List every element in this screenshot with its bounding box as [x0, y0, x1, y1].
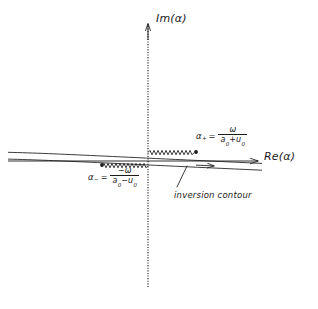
alpha-minus-numerator: −ω — [116, 167, 133, 176]
alpha-minus-den-u-sub: 0 — [133, 182, 137, 188]
alpha-minus-denominator: a0−u0 — [110, 175, 139, 187]
alpha-plus-fraction: ω a0+u0 — [218, 126, 247, 147]
alpha-minus-fraction: −ω a0−u0 — [110, 167, 139, 188]
imaginary-axis-label: Im(α) — [156, 12, 187, 25]
inversion-contour-direction-arrow — [196, 165, 214, 166]
alpha-plus-symbol-group: α+ — [196, 131, 207, 141]
inversion-contour-caption: inversion contour — [174, 190, 252, 200]
branch-cut-right — [148, 150, 194, 154]
alpha-plus-den-a-sub: 0 — [225, 141, 229, 147]
inversion-contour-leader-line — [177, 166, 187, 187]
branch-point-alpha-plus-label: α+ = ω a0+u0 — [196, 126, 247, 147]
alpha-minus-equals: = — [99, 173, 111, 182]
alpha-plus-denominator: a0+u0 — [218, 134, 247, 146]
branch-point-alpha-plus-dot — [194, 150, 198, 154]
branch-cut-right-zigzag — [148, 150, 194, 154]
real-axis-label: Re(α) — [264, 150, 295, 163]
alpha-minus-den-a-sub: 0 — [117, 182, 121, 188]
alpha-minus-subscript: − — [94, 176, 99, 182]
alpha-plus-subscript: + — [202, 135, 207, 141]
branch-point-alpha-minus-label: α− = −ω a0−u0 — [88, 167, 139, 188]
alpha-plus-den-u-sub: 0 — [241, 141, 245, 147]
alpha-minus-symbol-group: α− — [88, 172, 99, 182]
inversion-contour-upper-line — [8, 152, 262, 163]
alpha-plus-equals: = — [207, 132, 219, 141]
inversion-contour-diagram: Re(α) Im(α) α+ = ω a0+u0 α− = −ω a0−u0 i… — [0, 0, 318, 309]
alpha-plus-numerator: ω — [227, 126, 238, 135]
